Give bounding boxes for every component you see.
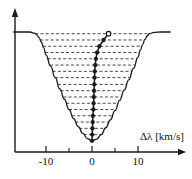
bisector-point-marker <box>95 51 99 55</box>
bisector-point-marker <box>93 69 97 73</box>
bisector-point-marker <box>91 126 95 130</box>
bisector-point-marker <box>91 108 95 112</box>
bisector-point-marker <box>90 133 94 137</box>
bisector-point-marker <box>93 76 97 80</box>
bisector-point-marker <box>92 83 96 87</box>
figure-canvas: -10010 Δλ [km/s] <box>0 0 192 179</box>
bisector-point-marker <box>92 101 96 105</box>
bisector-point-marker <box>92 95 96 99</box>
bisector-point-marker <box>102 38 106 42</box>
bisector-point-marker <box>91 120 95 124</box>
bisector-point-marker <box>92 89 96 93</box>
bisector-top-marker <box>106 31 111 36</box>
bisector-point-marker <box>90 139 94 143</box>
x-axis-tick-label: -10 <box>39 155 54 167</box>
bisector-point-marker <box>93 63 97 67</box>
bisector-point-marker <box>94 57 98 61</box>
bisector-point-marker <box>97 44 101 48</box>
spectral-line-bisector-figure: -10010 Δλ [km/s] <box>0 0 192 179</box>
x-axis-tick-label: 0 <box>89 155 95 167</box>
x-axis-label: Δλ [km/s] <box>140 130 184 142</box>
bisector-point-marker <box>91 114 95 118</box>
x-axis-tick-label: 10 <box>133 155 145 167</box>
